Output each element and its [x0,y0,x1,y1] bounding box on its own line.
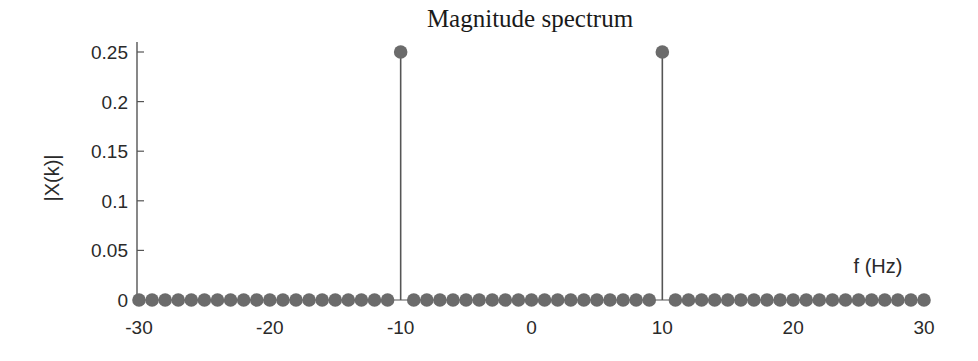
stem-marker [368,293,382,307]
y-tick-label: 0.1 [102,191,128,212]
stem-marker [682,293,696,307]
stem-marker [276,293,290,307]
x-tick-label: -30 [125,317,152,338]
stem-marker [839,293,853,307]
stem-marker [512,293,526,307]
x-tick-label: 10 [652,317,673,338]
stem-marker [878,293,892,307]
y-tick-label: 0.25 [91,42,128,63]
stem-marker [590,293,604,307]
stem-marker [328,293,342,307]
stem-marker [656,45,670,59]
stem-marker [198,293,212,307]
stem-marker [734,293,748,307]
x-tick-label: 0 [526,317,537,338]
stem-marker [616,293,630,307]
x-tick-label: -10 [387,317,414,338]
x-ticks: -30-20-100102030 [125,317,934,338]
stem-marker [721,293,735,307]
stem-marker [381,293,395,307]
stem-marker [132,293,146,307]
x-tick-label: -20 [256,317,283,338]
stem-marker [302,293,316,307]
stem-marker [786,293,800,307]
stem-marker [642,293,656,307]
stem-marker [459,293,473,307]
y-tick-label: 0.15 [91,141,128,162]
stem-marker [433,293,447,307]
stem-marker [525,293,539,307]
stem-marker [158,293,172,307]
stem-marker [420,293,434,307]
x-tick-label: 20 [783,317,804,338]
x-axis-label: f (Hz) [854,255,903,277]
stem-marker [342,293,356,307]
stem-marker [250,293,264,307]
stem-marker [263,293,277,307]
stem-marker [237,293,251,307]
stem-marker [394,45,408,59]
stem-marker [904,293,918,307]
y-tick-label: 0 [117,290,128,311]
stem-marker [315,293,329,307]
stem-marker [499,293,513,307]
stem-marker [407,293,421,307]
y-tick-label: 0.05 [91,240,128,261]
stem-marker [708,293,722,307]
stem-marker [564,293,578,307]
stem-marker [917,293,931,307]
stem-marker [211,293,225,307]
magnitude-spectrum-chart: Magnitude spectrum 00.050.10.150.20.25 |… [0,0,978,361]
y-tick-label: 0.2 [102,92,128,113]
stem-marker [577,293,591,307]
stem-marker [826,293,840,307]
stem-marker [865,293,879,307]
y-axis: 00.050.10.150.20.25 [91,42,144,311]
stem-marker [485,293,499,307]
y-axis-label: |X(k)| [41,154,63,201]
stem-series [132,45,931,307]
stem-marker [603,293,617,307]
stem-marker [472,293,486,307]
stem-marker [773,293,787,307]
stem-marker [852,293,866,307]
stem-marker [185,293,199,307]
stem-marker [355,293,369,307]
stem-marker [669,293,683,307]
stem-marker [760,293,774,307]
x-tick-label: 30 [913,317,934,338]
stem-marker [551,293,565,307]
stem-marker [446,293,460,307]
chart-title: Magnitude spectrum [427,5,634,32]
stem-marker [891,293,905,307]
stem-marker [538,293,552,307]
stem-marker [813,293,827,307]
stem-marker [224,293,238,307]
y-ticks: 00.050.10.150.20.25 [91,42,144,311]
stem-marker [747,293,761,307]
stem-marker [629,293,643,307]
stem-marker [171,293,185,307]
stem-marker [289,293,303,307]
stem-marker [799,293,813,307]
stem-marker [695,293,709,307]
stem-marker [145,293,159,307]
